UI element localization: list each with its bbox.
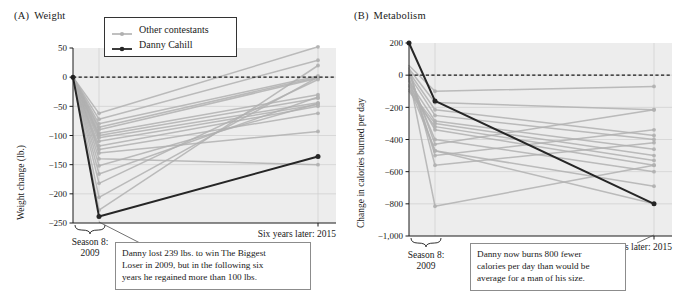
- x-label-season-line2: 2009: [417, 261, 436, 271]
- series-point-other: [316, 95, 320, 99]
- y-axis-tick-label: −50: [53, 102, 68, 112]
- legend-swatch-danny: [111, 40, 133, 50]
- y-axis-tick-label: −200: [384, 103, 403, 113]
- series-point-other: [652, 128, 656, 132]
- series-point-other: [316, 45, 320, 49]
- x-label-season-line2: 2009: [81, 248, 100, 258]
- series-point-other: [652, 184, 656, 188]
- y-axis-tick-label: −800: [384, 199, 403, 209]
- series-point-other: [316, 163, 320, 167]
- series-point-danny: [97, 214, 102, 219]
- y-axis-tick-label: 0: [399, 70, 404, 80]
- series-point-other: [316, 58, 320, 62]
- series-point-other: [316, 130, 320, 134]
- series-point-danny: [433, 98, 438, 103]
- y-axis-tick-label: −150: [48, 160, 67, 170]
- legend-label-other: Other contestants: [139, 24, 209, 35]
- series-point-other: [433, 163, 437, 167]
- series-point-other: [316, 64, 320, 68]
- figure-root: (A)Weight Weight change (lb.) 500−50−100…: [0, 0, 684, 298]
- legend-swatch-other: [111, 25, 133, 35]
- panel-b-callout: Danny now burns 800 fewer calories per d…: [470, 243, 626, 291]
- panel-metabolism: (B)Metabolism Change in calories burned …: [342, 0, 684, 298]
- series-point-other: [652, 159, 656, 163]
- series-point-other: [433, 149, 437, 153]
- series-point-other: [433, 113, 437, 117]
- y-axis-tick-label: 0: [63, 72, 68, 82]
- y-axis-tick-label: 50: [58, 43, 68, 53]
- panel-a-callout: Danny lost 239 lbs. to win The Biggest L…: [115, 242, 311, 290]
- series-point-other: [97, 181, 101, 185]
- y-axis-tick-label: −100: [48, 131, 67, 141]
- y-axis-tick-label: −1,000: [378, 231, 404, 241]
- series-point-other: [652, 154, 656, 158]
- series-point-danny: [316, 154, 321, 159]
- series-point-other: [433, 128, 437, 132]
- series-point-other: [316, 111, 320, 115]
- legend-item-other: Other contestants: [111, 22, 228, 37]
- y-axis-tick-label: −600: [384, 167, 403, 177]
- series-point-other: [652, 170, 656, 174]
- y-axis-tick-label: −400: [384, 135, 403, 145]
- series-point-other: [433, 108, 437, 112]
- season-brace: [75, 225, 105, 234]
- series-point-other: [97, 111, 101, 115]
- y-axis-tick-label: −250: [48, 218, 67, 228]
- y-axis-tick-label: 200: [390, 38, 404, 48]
- series-point-other: [316, 102, 320, 106]
- series-point-other: [652, 163, 656, 167]
- series-point-other: [652, 147, 656, 151]
- legend-label-danny: Danny Cahill: [139, 39, 193, 50]
- series-point-other: [652, 85, 656, 89]
- series-point-other: [652, 108, 656, 112]
- series-point-other: [433, 154, 437, 158]
- series-point-other: [97, 195, 101, 199]
- series-point-other: [433, 89, 437, 93]
- y-axis-tick-label: −200: [48, 189, 67, 199]
- season-brace: [411, 238, 441, 247]
- legend: Other contestants Danny Cahill: [104, 17, 237, 57]
- series-point-other: [652, 134, 656, 138]
- x-label-season-line1: Season 8:: [408, 250, 445, 260]
- series-point-other: [433, 204, 437, 208]
- series-point-danny: [652, 201, 657, 206]
- x-label-season-line1: Season 8:: [72, 237, 109, 247]
- x-label-2015: Six years later: 2015: [258, 229, 337, 239]
- series-point-other: [652, 141, 656, 145]
- legend-item-danny: Danny Cahill: [111, 37, 228, 52]
